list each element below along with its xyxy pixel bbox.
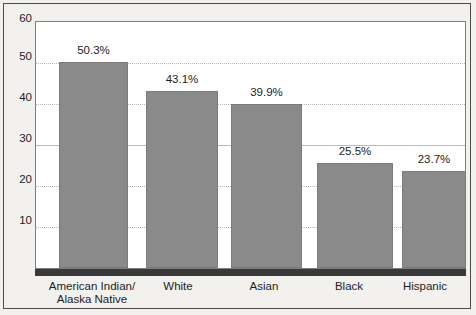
y-tick-label-10: 10 xyxy=(8,215,32,227)
plot-area: 50.3% 43.1% 39.9% 25.5% 23.7% xyxy=(35,21,466,269)
axis-baseline-band xyxy=(35,269,466,276)
chart-screenshot: 60 50 40 30 20 10 50.3% xyxy=(0,0,476,315)
y-tick-label-60: 60 xyxy=(8,13,32,25)
bar-series xyxy=(36,22,465,268)
bar-black[interactable] xyxy=(317,163,393,268)
y-axis: 60 50 40 30 20 10 xyxy=(4,4,32,294)
y-tick-label-50: 50 xyxy=(8,51,32,63)
y-tick-label-40: 40 xyxy=(8,92,32,104)
y-tick-label-20: 20 xyxy=(8,174,32,186)
bar-value-black: 25.5% xyxy=(317,146,393,158)
chart-frame: 60 50 40 30 20 10 50.3% xyxy=(3,3,471,309)
bar-value-asian: 39.9% xyxy=(231,87,302,99)
bar-white[interactable] xyxy=(146,91,218,268)
x-axis-label-hispanic: Hispanic xyxy=(375,280,475,293)
bar-american-indian-alaska-native[interactable] xyxy=(59,62,128,268)
bar-asian[interactable] xyxy=(231,104,302,268)
bar-hispanic[interactable] xyxy=(402,171,466,268)
y-tick-label-30: 30 xyxy=(8,133,32,145)
bar-value-hispanic: 23.7% xyxy=(402,154,466,166)
bar-value-white: 43.1% xyxy=(146,74,218,86)
bar-value-american-indian-alaska-native: 50.3% xyxy=(59,45,128,57)
